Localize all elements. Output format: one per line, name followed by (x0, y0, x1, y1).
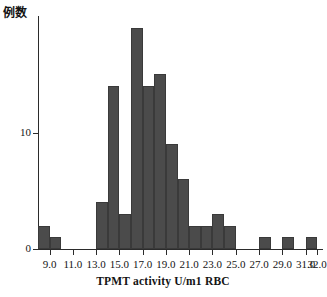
x-tick-label: 13.0 (87, 258, 106, 270)
x-axis-title: TPMT activity U/m1 RBC (0, 275, 326, 287)
y-tick-label: 10 (0, 127, 31, 138)
histogram-bar (224, 226, 236, 249)
histogram-bar (108, 86, 120, 249)
histogram-bar (166, 144, 178, 249)
x-tick-mark (73, 250, 74, 255)
histogram-bar (131, 28, 143, 249)
x-tick-label: 21.0 (180, 258, 199, 270)
x-tick-mark (282, 250, 283, 255)
x-tick-mark (306, 250, 307, 255)
y-axis-line (38, 16, 39, 249)
x-tick-mark (119, 250, 120, 255)
histogram-bar (178, 179, 190, 249)
histogram-bar (189, 226, 201, 249)
x-tick-mark (143, 250, 144, 255)
y-tick-label-text: 0 (0, 243, 31, 254)
x-tick-label: 9.0 (43, 258, 57, 270)
histogram-bar (306, 237, 318, 249)
y-tick-mark (33, 249, 38, 250)
x-tick-mark (259, 250, 260, 255)
histogram-bar (259, 237, 271, 249)
x-tick-label: 19.0 (156, 258, 175, 270)
histogram-bar (154, 74, 166, 249)
x-tick-mark (166, 250, 167, 255)
histogram-bar (119, 214, 131, 249)
x-tick-label: 23.0 (203, 258, 222, 270)
histogram-bar (143, 86, 155, 249)
y-tick-label-text: 10 (0, 127, 31, 138)
histogram-bar (282, 237, 294, 249)
x-tick-label: 27.0 (249, 258, 268, 270)
y-tick-mark (33, 133, 38, 134)
histogram-bar (201, 226, 213, 249)
y-tick-label: 0 (0, 243, 31, 254)
x-tick-mark (317, 250, 318, 255)
x-tick-label: 29.0 (273, 258, 292, 270)
histogram-bar (38, 226, 50, 249)
x-tick-label: 32.0 (308, 258, 327, 270)
x-axis-line (38, 249, 323, 250)
y-axis-title: 例数 (3, 6, 27, 20)
x-tick-label: 11.0 (63, 258, 82, 270)
x-tick-label: 17.0 (133, 258, 152, 270)
x-tick-mark (212, 250, 213, 255)
x-tick-label: 25.0 (226, 258, 245, 270)
histogram-bar (96, 202, 108, 249)
x-tick-mark (96, 250, 97, 255)
histogram-bar (50, 237, 62, 249)
x-tick-mark (189, 250, 190, 255)
x-tick-mark (236, 250, 237, 255)
x-tick-label: 15.0 (110, 258, 129, 270)
histogram-bar (212, 214, 224, 249)
x-tick-mark (50, 250, 51, 255)
